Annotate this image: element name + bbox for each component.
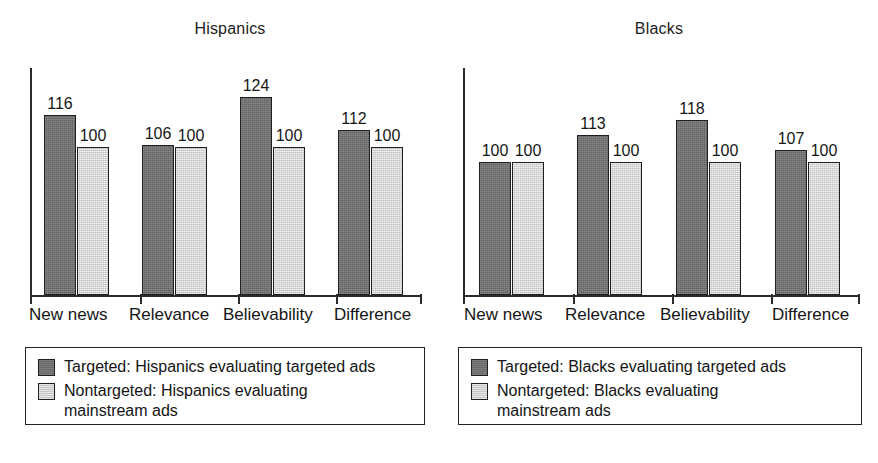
bar-value-label: 100: [504, 142, 552, 160]
x-axis-line-left: [30, 295, 422, 297]
legend-label-nontargeted: Nontargeted: Blacks evaluating mainstrea…: [497, 381, 718, 421]
x-axis-tick: [573, 294, 575, 304]
legend-item-nontargeted: Nontargeted: Hispanics evaluating mainst…: [38, 381, 308, 421]
bar-value-label: 124: [232, 77, 280, 95]
x-axis-tick: [420, 294, 422, 304]
bar-value-label: 112: [330, 110, 378, 128]
category-label-relevance: Relevance: [565, 305, 645, 325]
legend-item-targeted: Targeted: Blacks evaluating targeted ads: [471, 357, 786, 377]
plot-area-blacks: 100 100 113 100: [458, 68, 858, 300]
bar-value-label: 100: [265, 127, 313, 145]
bar-targeted[interactable]: [479, 162, 511, 295]
legend-label-nontargeted: Nontargeted: Hispanics evaluating mainst…: [64, 381, 308, 421]
bar-value-label: 113: [569, 115, 617, 133]
legend-hispanics: Targeted: Hispanics evaluating targeted …: [25, 347, 425, 425]
panel-title-blacks: Blacks: [440, 20, 878, 38]
x-axis-line-right: [463, 295, 860, 297]
bar-groups-left: 116 100 106 100: [32, 73, 420, 295]
bar-value-label: 116: [36, 95, 84, 113]
x-axis-tick: [463, 294, 465, 304]
bar-nontargeted[interactable]: [512, 162, 544, 295]
category-label-new-news: New news: [464, 305, 542, 325]
x-axis-tick: [336, 294, 338, 304]
x-axis-category-labels-right: New news Relevance Believability Differe…: [460, 305, 862, 329]
legend-swatch-targeted-icon: [38, 359, 55, 376]
bar-targeted[interactable]: [775, 150, 807, 295]
bar-targeted[interactable]: [142, 145, 174, 295]
x-axis-tick: [30, 294, 32, 304]
legend-label-nontargeted-line1: Nontargeted: Hispanics evaluating: [64, 382, 308, 399]
panel-hispanics: Hispanics 116 100: [0, 0, 440, 463]
legend-label-targeted: Targeted: Hispanics evaluating targeted …: [64, 357, 375, 377]
legend-swatch-nontargeted-icon: [38, 383, 55, 400]
category-label-relevance: Relevance: [129, 305, 209, 325]
legend-item-targeted: Targeted: Hispanics evaluating targeted …: [38, 357, 375, 377]
plot-area-hispanics: 116 100 106 100: [25, 68, 420, 300]
x-axis-tick: [771, 294, 773, 304]
category-label-difference: Difference: [772, 305, 849, 325]
panel-title-hispanics: Hispanics: [0, 20, 450, 38]
x-axis-tick: [238, 294, 240, 304]
panel-blacks: Blacks 100 100: [440, 0, 878, 463]
bar-nontargeted[interactable]: [175, 147, 207, 295]
legend-label-nontargeted-line2: mainstream ads: [64, 402, 178, 419]
legend-label-nontargeted-line1: Nontargeted: Blacks evaluating: [497, 382, 718, 399]
bar-value-label: 118: [668, 100, 716, 118]
two-panel-bar-chart-figure: Hispanics 116 100: [0, 0, 878, 463]
x-axis-tick: [858, 294, 860, 304]
legend-blacks: Targeted: Blacks evaluating targeted ads…: [458, 347, 862, 425]
category-label-believability: Believability: [223, 305, 313, 325]
bar-value-label: 100: [800, 142, 848, 160]
x-axis-tick: [672, 294, 674, 304]
legend-swatch-nontargeted-icon: [471, 383, 488, 400]
bar-nontargeted[interactable]: [77, 147, 109, 295]
legend-label-targeted: Targeted: Blacks evaluating targeted ads: [497, 357, 786, 377]
bar-targeted[interactable]: [338, 130, 370, 295]
category-label-difference: Difference: [334, 305, 411, 325]
category-label-believability: Believability: [660, 305, 750, 325]
bar-value-label: 100: [69, 127, 117, 145]
bar-nontargeted[interactable]: [709, 162, 741, 295]
bar-nontargeted[interactable]: [610, 162, 642, 295]
category-label-new-news: New news: [29, 305, 107, 325]
bar-value-label: 100: [602, 142, 650, 160]
legend-item-nontargeted: Nontargeted: Blacks evaluating mainstrea…: [471, 381, 718, 421]
x-axis-category-labels-left: New news Relevance Believability Differe…: [25, 305, 423, 329]
bar-value-label: 100: [701, 142, 749, 160]
bar-value-label: 100: [363, 127, 411, 145]
legend-swatch-targeted-icon: [471, 359, 488, 376]
bar-nontargeted[interactable]: [371, 147, 403, 295]
bar-value-label: 100: [167, 127, 215, 145]
bar-groups-right: 100 100 113 100: [465, 73, 858, 295]
bar-nontargeted[interactable]: [273, 147, 305, 295]
legend-label-nontargeted-line2: mainstream ads: [497, 402, 611, 419]
x-axis-tick: [140, 294, 142, 304]
bar-nontargeted[interactable]: [808, 162, 840, 295]
